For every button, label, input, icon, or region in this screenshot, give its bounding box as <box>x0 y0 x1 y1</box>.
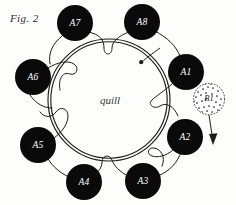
node-a8-label: A8 <box>136 17 148 27</box>
node-a4-label: A4 <box>78 177 90 187</box>
node-a2[interactable]: A2 <box>167 119 203 155</box>
node-a2-label: A2 <box>179 132 191 142</box>
node-a3-label: A3 <box>137 176 149 186</box>
node-a3[interactable]: A3 <box>125 163 161 199</box>
node-a7-label: A7 <box>69 18 82 28</box>
node-a4[interactable]: A4 <box>66 164 102 200</box>
node-a1[interactable]: A1 <box>168 54 204 90</box>
b1-arrow-head <box>209 133 218 145</box>
diagram-canvas: quill Fig. 2 A1 A2 A3 A4 A5 A6 <box>0 0 236 205</box>
tether-a1 <box>150 84 178 116</box>
figure-2-diagram: quill Fig. 2 A1 A2 A3 A4 A5 A6 <box>0 0 236 205</box>
tether-a7-outer <box>50 36 63 64</box>
tether-a3-outer <box>158 152 181 176</box>
node-a7[interactable]: A7 <box>57 5 93 41</box>
node-a6[interactable]: A6 <box>15 59 51 95</box>
node-a5[interactable]: A5 <box>20 127 56 163</box>
node-b1-label: B1 <box>204 93 213 103</box>
node-a5-label: A5 <box>32 140 44 150</box>
node-b1[interactable]: B1 <box>193 83 224 114</box>
tether-a2 <box>148 148 173 166</box>
figure-caption: Fig. 2 <box>9 12 39 24</box>
b1-release-arrow <box>209 115 218 145</box>
tether-a8 <box>155 31 180 56</box>
tether-a7 <box>88 31 132 54</box>
direction-arrow-head <box>139 60 143 64</box>
node-a1-label: A1 <box>180 67 192 77</box>
node-a8[interactable]: A8 <box>124 4 160 40</box>
center-label: quill <box>100 94 120 106</box>
node-a6-label: A6 <box>27 72 39 82</box>
